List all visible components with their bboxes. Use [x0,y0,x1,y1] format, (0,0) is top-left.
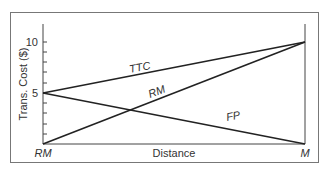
fp-label: FP [225,108,242,123]
chart-frame [11,13,319,163]
fp-line [43,93,305,144]
y-ticks [43,42,47,134]
tick-5-label: 5 [32,87,38,99]
ttc-line [43,42,305,93]
x-right-label: M [300,147,310,159]
rm-line [43,42,305,144]
tick-10-label: 10 [26,36,38,48]
chart: 10 5 Trans. Cost ($) Distance RM M TTC R… [0,0,329,169]
y-axis-label: Trans. Cost ($) [17,48,29,121]
x-left-label: RM [34,147,52,159]
x-axis-label: Distance [153,147,196,159]
